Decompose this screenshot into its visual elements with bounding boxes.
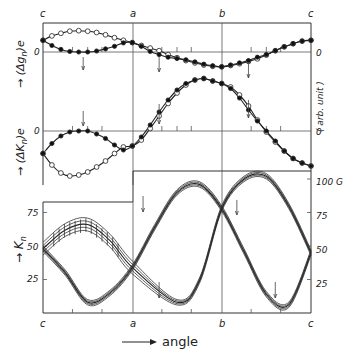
delta-g-point-filled (112, 44, 116, 48)
delta-g-point-filled (193, 60, 197, 64)
delta-g-point-filled (41, 38, 45, 42)
delta-g-point-open (94, 30, 99, 35)
delta-K-point-filled (193, 78, 197, 82)
delta-g-point-open (103, 32, 108, 37)
delta-K-point-open (76, 173, 81, 178)
arrow-up-glyph-g: → (14, 75, 27, 88)
delta-g-point-filled (202, 62, 206, 66)
left-tick-75: 75 (27, 208, 39, 218)
lower-frame-top (43, 171, 311, 202)
delta-g-point-filled (139, 44, 143, 48)
delta-K-point-open (67, 174, 72, 179)
delta-K-point-filled (130, 144, 134, 148)
top-label-c-right: c (308, 8, 314, 19)
delta-g-point-filled (121, 41, 125, 45)
K-branch-A-band-0 (43, 186, 311, 310)
right-tick-25: 25 (316, 279, 328, 289)
delta-K-point-filled (184, 81, 188, 85)
delta-K-point-filled (273, 139, 277, 143)
delta-g-point-filled (264, 53, 268, 57)
ylabel-K: → Kn (12, 236, 28, 263)
delta-K-point-filled (139, 135, 143, 139)
delta-K-point-filled (237, 96, 241, 100)
delta-g-point-filled (103, 47, 107, 51)
K-branch-B-band-0 (43, 176, 311, 305)
delta-K-point-filled (68, 130, 72, 134)
delta-K-point-filled (41, 151, 45, 155)
delta-g-point-filled (77, 50, 81, 54)
delta-g-point-filled (148, 49, 152, 53)
delta-g-point-open (112, 35, 117, 40)
delta-K-point-filled (77, 129, 81, 133)
delta-g-point-filled (50, 43, 54, 47)
delta-g-point-filled (273, 49, 277, 53)
delta-K-point-filled (211, 79, 215, 83)
top-label-c-left: c (40, 8, 46, 19)
right-tick-50: 50 (316, 245, 328, 255)
bottom-label-a: a (130, 318, 136, 329)
delta-K-point-filled (264, 129, 268, 133)
delta-K-point-filled (50, 141, 54, 145)
delta-g-point-open (85, 29, 90, 34)
delta-K-point-filled (148, 123, 152, 127)
zero-label-g-right: 0 (316, 48, 322, 58)
bottom-label-c-left: c (40, 318, 46, 329)
delta-K-point-filled (282, 149, 286, 153)
delta-K-point-filled (121, 148, 125, 152)
delta-K-point-filled (95, 132, 99, 136)
delta-K-point-open (85, 170, 90, 175)
K-branch-A-band-1 (43, 185, 311, 309)
arb-unit-label: ( arb. unit ) (315, 81, 325, 132)
delta-K-point-open (50, 163, 55, 168)
delta-g-point-filled (86, 50, 90, 54)
right-tick-75: 75 (316, 211, 328, 221)
delta-g-point-filled (68, 49, 72, 53)
delta-K-point-filled (175, 88, 179, 92)
ylabel-delta-g-main: (Δg (14, 56, 27, 75)
delta-K-point-filled (112, 143, 116, 147)
lower-panel (43, 171, 311, 313)
delta-K-point-filled (220, 81, 224, 85)
delta-K-point-filled (309, 164, 313, 168)
delta-K-point-filled (59, 134, 63, 138)
delta-g-point-filled (291, 42, 295, 46)
delta-g-point-filled (282, 45, 286, 49)
delta-g-point-filled (220, 65, 224, 69)
arrow-up-glyph-Kn: → (12, 249, 26, 263)
delta-g-point-filled (184, 58, 188, 62)
delta-g-point-filled (300, 39, 304, 43)
bottom-label-c-right: c (308, 318, 314, 329)
delta-K-point-open (59, 171, 64, 176)
left-tick-50: 50 (27, 242, 39, 252)
delta-K-point-filled (166, 98, 170, 102)
ylabel-K-sub: n (19, 236, 28, 241)
delta-K-point-open (112, 151, 117, 156)
delta-g-point-open (76, 28, 81, 33)
delta-g-point-filled (59, 47, 63, 51)
figure: c a b c → (Δgn)e → (ΔKn)e 0 0 0 0 ( arb.… (0, 0, 347, 353)
delta-K-point-filled (202, 76, 206, 80)
bottom-label-b: b (219, 318, 225, 329)
delta-g-point-filled (229, 63, 233, 67)
upper-panel (41, 23, 314, 185)
top-label-a: a (130, 8, 136, 19)
zero-label-K-left: 0 (34, 126, 40, 136)
delta-g-point-filled (255, 55, 259, 59)
lower-curves (43, 171, 311, 310)
delta-K-point-filled (255, 119, 259, 123)
delta-K-point-filled (86, 129, 90, 133)
top-label-b: b (219, 8, 225, 19)
K-branch-A-band-3 (43, 182, 311, 306)
delta-g-point-open (50, 34, 55, 39)
delta-g-point-filled (237, 61, 241, 65)
angle-arrowhead-icon (150, 339, 157, 345)
delta-g-point-filled (130, 41, 134, 45)
K-branch-B-band-4 (43, 171, 311, 300)
ylabel-delta-g: → (Δgn)e (14, 40, 29, 88)
delta-K-point-open (94, 165, 99, 170)
delta-K-point-filled (229, 86, 233, 90)
delta-g-point-open (59, 31, 64, 36)
upper-arrows (82, 57, 250, 126)
K-branch-A-band-4 (43, 181, 311, 305)
delta-K-point-open (103, 159, 108, 164)
